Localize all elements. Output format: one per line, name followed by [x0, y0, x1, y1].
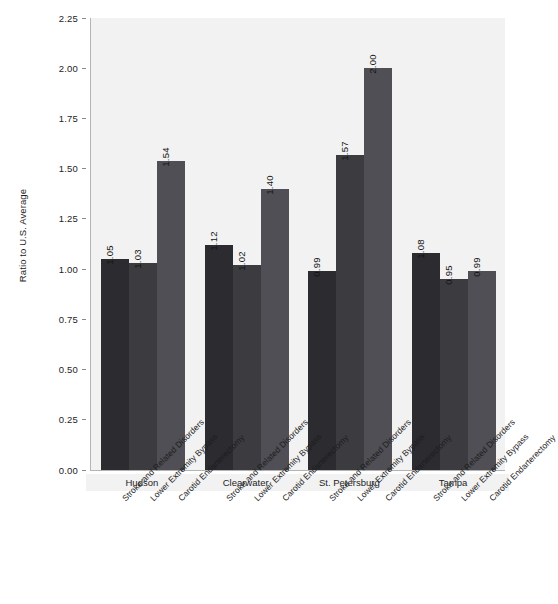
- y-tick-label: 0.50: [59, 364, 78, 375]
- y-tick-label: 2.25: [59, 13, 78, 24]
- bar-value-label: 1.02: [236, 251, 247, 270]
- y-tick-0.00: 0.00: [59, 464, 86, 476]
- y-tick-mark: [82, 319, 86, 320]
- bar-value-label: 0.95: [443, 266, 454, 285]
- bar-hudson-stroke-and-related-disorders[interactable]: 1.05: [101, 259, 129, 470]
- y-tick-2.25: 2.25: [59, 12, 86, 24]
- bar-hudson-lower-extremity-bypass[interactable]: 1.03: [129, 263, 157, 470]
- bar-value-label: 1.08: [415, 239, 426, 258]
- bar-value-label: 1.12: [208, 231, 219, 250]
- bar-value-label: 0.99: [471, 257, 482, 276]
- y-tick-mark: [82, 419, 86, 420]
- y-tick-mark: [82, 68, 86, 69]
- bar-value-label: 1.40: [264, 175, 275, 194]
- y-tick-mark: [82, 118, 86, 119]
- y-tick-mark: [82, 18, 86, 19]
- y-tick-0.75: 0.75: [59, 313, 86, 325]
- y-tick-label: 1.75: [59, 113, 78, 124]
- y-tick-label: 1.00: [59, 264, 78, 275]
- bar-value-label: 2.00: [367, 55, 378, 74]
- y-tick-mark: [82, 218, 86, 219]
- bar-value-label: 1.57: [339, 141, 350, 160]
- y-tick-1.50: 1.50: [59, 163, 86, 175]
- y-tick-label: 1.50: [59, 163, 78, 174]
- y-tick-mark: [82, 470, 86, 471]
- bar-value-label: 1.54: [160, 147, 171, 166]
- bar-st-petersburg-carotid-endarterectomy[interactable]: 2.00: [364, 68, 392, 470]
- y-tick-1.25: 1.25: [59, 213, 86, 225]
- y-tick-label: 0.25: [59, 414, 78, 425]
- y-tick-label: 0.75: [59, 314, 78, 325]
- y-tick-mark: [82, 269, 86, 270]
- y-tick-mark: [82, 168, 86, 169]
- y-tick-label: 1.25: [59, 213, 78, 224]
- y-tick-1.75: 1.75: [59, 112, 86, 124]
- bar-clearwater-carotid-endarterectomy[interactable]: 1.40: [261, 189, 289, 470]
- y-axis-title-text: Ratio to U.S. Average: [18, 188, 29, 281]
- bar-st-petersburg-lower-extremity-bypass[interactable]: 1.57: [336, 155, 364, 470]
- y-axis-tick-labels: 0.000.250.500.751.001.251.501.752.002.25: [34, 18, 86, 470]
- plot-area: 1.051.031.541.121.021.400.991.572.001.08…: [90, 18, 505, 470]
- y-tick-1.00: 1.00: [59, 263, 86, 275]
- y-tick-mark: [82, 369, 86, 370]
- y-tick-label: 0.00: [59, 465, 78, 476]
- bar-hudson-carotid-endarterectomy[interactable]: 1.54: [157, 161, 185, 470]
- bar-value-label: 0.99: [311, 257, 322, 276]
- y-tick-label: 2.00: [59, 63, 78, 74]
- y-tick-2.00: 2.00: [59, 62, 86, 74]
- bar-value-label: 1.05: [104, 245, 115, 264]
- y-axis-title: Ratio to U.S. Average: [14, 0, 32, 470]
- y-tick-0.25: 0.25: [59, 414, 86, 426]
- y-tick-0.50: 0.50: [59, 364, 86, 376]
- bar-value-label: 1.03: [132, 249, 143, 268]
